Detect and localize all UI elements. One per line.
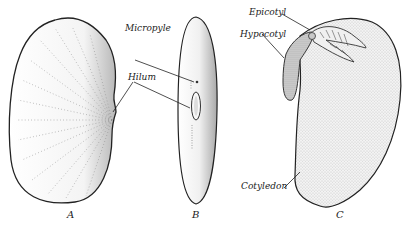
label-micropyle: Micropyle (125, 24, 171, 33)
label-cotyledon: Cotyledon (241, 182, 287, 191)
panel-a-seed (9, 18, 116, 203)
panel-c-seed (283, 18, 401, 207)
panel-b-seed (178, 17, 217, 204)
label-hilum: Hilum (128, 73, 156, 82)
caption-b: B (192, 210, 199, 220)
caption-a: A (67, 210, 74, 220)
label-hypocotyl: Hypocotyl (240, 30, 286, 39)
label-epicotyl: Epicotyl (249, 8, 286, 17)
leader-hilum-a (113, 82, 133, 112)
caption-c: C (336, 210, 344, 220)
bean-seed-diagram (0, 0, 408, 226)
